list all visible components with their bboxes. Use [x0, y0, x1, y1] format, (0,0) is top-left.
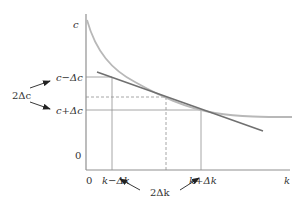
label-c-plus-dc: c+Δc: [56, 105, 83, 116]
label-2dc: 2Δc: [12, 90, 32, 101]
label-c-minus-dc: c−Δc: [56, 72, 83, 83]
arrow-2dc-upper-icon: [30, 81, 50, 88]
arrow-2dc-lower-icon: [30, 102, 50, 109]
label-k-minus-dk: k−Δk: [102, 175, 130, 186]
diagram-canvas: c c−Δc c+Δc 2Δc 0 0 k−Δk k+Δk k 2Δk: [0, 0, 304, 206]
x-axis-label: k: [284, 175, 290, 186]
y-axis-label: c: [73, 19, 79, 30]
tangent-line: [97, 72, 263, 131]
curve: [87, 20, 292, 117]
x-origin-label: 0: [86, 175, 92, 186]
label-k-plus-dk: k+Δk: [189, 175, 217, 186]
label-2dk: 2Δk: [150, 187, 171, 198]
y-origin-label: 0: [75, 150, 81, 161]
